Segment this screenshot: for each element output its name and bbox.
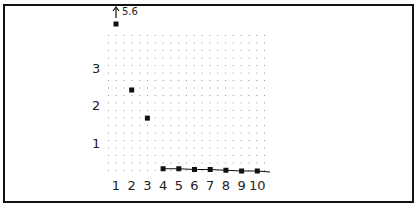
chart-frame: 123123456789105.6	[3, 4, 414, 203]
data-point	[223, 168, 228, 173]
data-point	[114, 22, 119, 27]
x-tick-label: 6	[190, 178, 198, 193]
data-point	[192, 167, 197, 172]
data-point	[255, 169, 260, 174]
data-point	[239, 169, 244, 174]
data-point	[145, 116, 150, 121]
x-tick-label: 2	[128, 178, 136, 193]
x-tick-label: 4	[159, 178, 167, 193]
x-tick-label: 1	[112, 178, 120, 193]
scree-plot: 123123456789105.6	[5, 6, 416, 205]
data-point	[129, 88, 134, 93]
x-tick-label: 5	[175, 178, 183, 193]
x-tick-label: 8	[222, 178, 230, 193]
x-tick-label: 10	[249, 178, 266, 193]
data-point	[161, 166, 166, 171]
x-tick-label: 7	[206, 178, 214, 193]
x-tick-label: 9	[237, 178, 245, 193]
x-tick-label: 3	[143, 178, 151, 193]
y-tick-label: 1	[92, 136, 100, 151]
y-tick-label: 3	[92, 61, 100, 76]
data-point	[208, 167, 213, 172]
y-tick-label: 2	[92, 98, 100, 113]
off-scale-value-label: 5.6	[122, 6, 138, 17]
data-point	[176, 166, 181, 171]
grid	[108, 35, 265, 171]
